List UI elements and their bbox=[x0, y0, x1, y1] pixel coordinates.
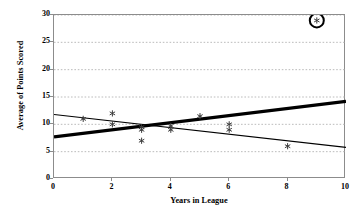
y-tick-label-10: 10 bbox=[4, 119, 50, 127]
y-tick-mark-0 bbox=[50, 178, 53, 179]
x-tick-label-8: 8 bbox=[275, 183, 299, 191]
y-tick-mark-15 bbox=[50, 96, 53, 97]
x-tick-label-4: 4 bbox=[158, 183, 182, 191]
x-tick-label-6: 6 bbox=[216, 183, 240, 191]
data-point-marker bbox=[110, 121, 115, 127]
y-tick-mark-10 bbox=[50, 123, 53, 124]
y-tick-label-30: 30 bbox=[4, 10, 50, 18]
data-point-marker bbox=[314, 17, 319, 23]
plot-area bbox=[53, 14, 345, 178]
y-tick-mark-5 bbox=[50, 151, 53, 152]
data-point-marker bbox=[81, 116, 86, 122]
x-tick-mark-4 bbox=[170, 178, 171, 181]
plot-canvas bbox=[54, 15, 346, 179]
scatter-chart: Average of Points Scored 051015202530 02… bbox=[0, 0, 358, 217]
y-tick-mark-20 bbox=[50, 69, 53, 70]
y-tick-label-5: 5 bbox=[4, 147, 50, 155]
x-tick-mark-6 bbox=[228, 178, 229, 181]
y-tick-mark-25 bbox=[50, 41, 53, 42]
data-point-marker bbox=[110, 110, 115, 116]
data-point-marker bbox=[227, 127, 232, 133]
x-tick-label-2: 2 bbox=[99, 183, 123, 191]
x-axis-title: Years in League bbox=[53, 196, 345, 205]
x-tick-label-10: 10 bbox=[333, 183, 357, 191]
y-tick-label-15: 15 bbox=[4, 92, 50, 100]
data-point-marker bbox=[285, 143, 290, 149]
y-tick-label-25: 25 bbox=[4, 37, 50, 45]
y-tick-label-0: 0 bbox=[4, 174, 50, 182]
x-tick-label-0: 0 bbox=[41, 183, 65, 191]
x-axis-tick-labels: 0246810 bbox=[53, 183, 345, 195]
y-tick-label-20: 20 bbox=[4, 65, 50, 73]
x-tick-mark-2 bbox=[111, 178, 112, 181]
data-point-marker bbox=[139, 138, 144, 144]
x-tick-mark-8 bbox=[287, 178, 288, 181]
y-tick-mark-30 bbox=[50, 14, 53, 15]
